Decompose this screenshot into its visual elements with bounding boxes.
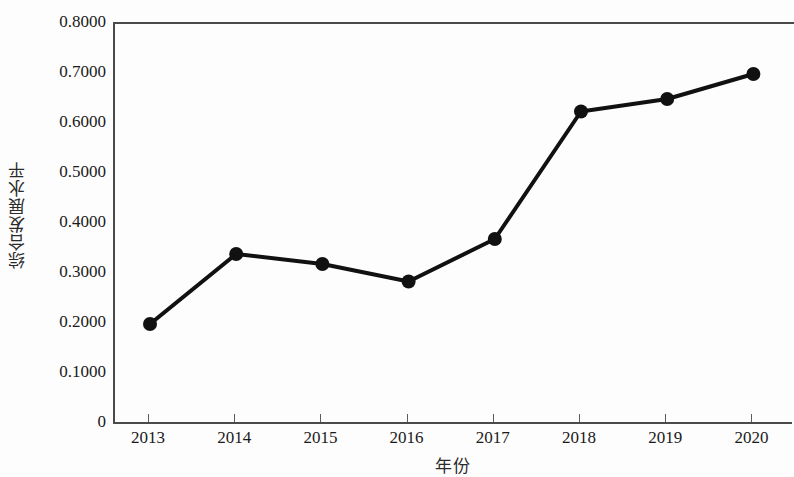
line-path <box>150 74 753 324</box>
x-axis-tick <box>320 414 321 422</box>
data-point-marker: 2019: 0.6500 <box>660 92 674 106</box>
y-axis-tick-label: 0.5000 <box>59 162 106 182</box>
x-axis-tick-label: 2017 <box>476 428 510 448</box>
x-axis-tick-label: 2015 <box>303 428 337 448</box>
y-axis-tick-label: 0.4000 <box>59 212 106 232</box>
y-axis-tick-label: 0.2000 <box>59 312 106 332</box>
data-point-marker: 2020: 0.7000 <box>746 67 760 81</box>
y-axis-tick-label: 0.1000 <box>59 362 106 382</box>
x-axis-tick-label: 2020 <box>734 428 768 448</box>
y-axis-tick-label: 0.6000 <box>59 112 106 132</box>
y-axis-title: 综合发展水平 <box>0 0 34 430</box>
x-axis-tick-label: 2016 <box>390 428 424 448</box>
x-axis-tick-label: 2014 <box>217 428 251 448</box>
x-axis-tick <box>751 414 752 422</box>
x-axis-tick <box>579 414 580 422</box>
data-point-marker: 2016: 0.2850 <box>402 275 416 289</box>
data-point-marker: 2018: 0.6250 <box>574 105 588 119</box>
x-axis-tick-label: 2019 <box>648 428 682 448</box>
y-axis-tick-label: 0.7000 <box>59 62 106 82</box>
line-series-svg: 2013: 0.20002014: 0.34002015: 0.32002016… <box>115 24 794 424</box>
data-point-marker: 2015: 0.3200 <box>315 257 329 271</box>
x-axis-tick <box>148 414 149 422</box>
x-axis-tick <box>493 414 494 422</box>
data-point-marker: 2017: 0.3700 <box>488 232 502 246</box>
data-point-marker: 2014: 0.3400 <box>229 247 243 261</box>
x-axis-tick <box>665 414 666 422</box>
y-axis-tick-labels: 00.10000.20000.30000.40000.50000.60000.7… <box>34 0 110 430</box>
x-axis-title: 年份 <box>113 452 792 477</box>
y-axis-tick-label: 0 <box>98 412 107 432</box>
x-axis-tick <box>407 414 408 422</box>
x-axis-tick <box>234 414 235 422</box>
x-axis-line <box>113 422 792 424</box>
data-point-marker: 2013: 0.2000 <box>143 317 157 331</box>
y-axis-tick-label: 0.8000 <box>59 12 106 32</box>
x-axis-tick-label: 2018 <box>562 428 596 448</box>
x-axis-tick-label: 2013 <box>131 428 165 448</box>
plot-area: 2013: 0.20002014: 0.34002015: 0.32002016… <box>113 22 794 424</box>
y-axis-title-label: 综合发展水平 <box>5 161 30 269</box>
y-axis-tick-label: 0.3000 <box>59 262 106 282</box>
